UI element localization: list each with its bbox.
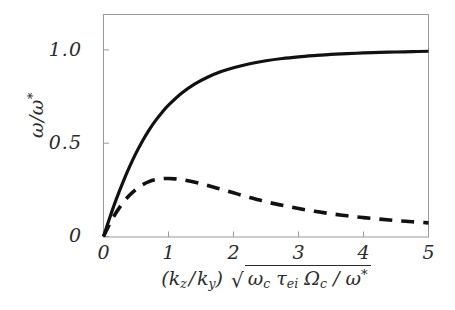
data-curves xyxy=(104,51,429,236)
y-tick-label-05: 0.5 xyxy=(22,131,82,153)
curve-real-frequency xyxy=(104,51,429,236)
x-axis-label-text: (kz / ky) √ωc τei Ωc / ω* xyxy=(161,267,371,289)
x-tick-label-4: 4 xyxy=(344,241,384,263)
x-axis-label: (kz / ky) √ωc τei Ωc / ω* xyxy=(103,265,429,292)
x-tick-label-1: 1 xyxy=(149,241,189,263)
curve-growth-rate xyxy=(104,178,429,236)
figure-container: ω/ω* (kz / ky) √ωc τei Ωc / ω* 1.0 0.5 0… xyxy=(0,0,455,310)
y-tick-marks xyxy=(104,50,110,237)
y-tick-label-1: 1.0 xyxy=(22,38,82,60)
x-tick-label-2: 2 xyxy=(214,241,254,263)
x-tick-marks xyxy=(104,232,429,238)
y-tick-label-0: 0 xyxy=(22,224,82,246)
x-tick-label-5: 5 xyxy=(409,241,449,263)
x-tick-label-3: 3 xyxy=(279,241,319,263)
x-tick-label-0: 0 xyxy=(84,241,124,263)
